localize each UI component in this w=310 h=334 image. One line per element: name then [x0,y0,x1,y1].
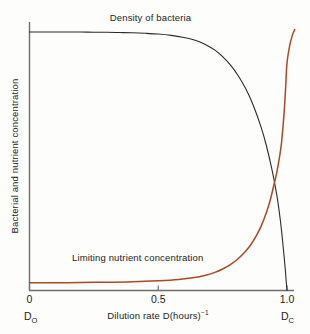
chart-background [0,0,310,334]
chart-svg: Density of bacteria Limiting nutrient co… [0,0,310,334]
x-axis-tick-label: 1.0 [280,293,295,305]
x-axis-tick-label: 0 [27,293,33,305]
x-axis-tick-label: 0.5 [151,293,166,305]
chart-figure: Density of bacteria Limiting nutrient co… [0,0,310,334]
x-axis-title-text: Dilution rate D(hours) [107,310,201,321]
endpoint-label-d-c-subscript: C [289,316,295,325]
endpoint-label-d-o-subscript: O [32,316,38,325]
annotation-density-of-bacteria: Density of bacteria [110,12,192,23]
annotation-limiting-nutrient-concentration: Limiting nutrient concentration [72,252,203,263]
y-axis-title: Bacterial and nutrient concentration [9,79,20,234]
x-axis-title-superscript: −1 [201,309,209,316]
x-axis-title: Dilution rate D(hours)−1 [107,309,209,321]
